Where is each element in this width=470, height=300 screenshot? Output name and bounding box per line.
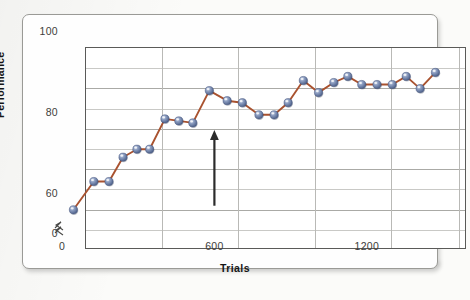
grid-line-horizontal <box>86 129 465 130</box>
grid-line-horizontal <box>86 88 465 89</box>
grid-line-horizontal <box>86 109 465 110</box>
grid-line-vertical <box>391 48 392 248</box>
grid-line-horizontal <box>86 169 465 170</box>
grid-line-horizontal <box>86 149 465 150</box>
figure-card <box>22 14 438 269</box>
grid-line-vertical <box>162 48 163 248</box>
x-tick-label: 600 <box>184 240 244 252</box>
x-tick-label: 1200 <box>337 240 397 252</box>
grid-line-vertical <box>459 48 460 248</box>
x-axis-tick-labels: 06001200 <box>0 240 470 256</box>
grid-line-horizontal <box>86 230 465 231</box>
grid-line-vertical <box>238 48 239 248</box>
y-tick-label: 100 <box>24 25 58 37</box>
y-tick-label: 60 <box>24 187 58 199</box>
grid-line-horizontal <box>86 210 465 211</box>
y-tick-label: 80 <box>24 106 58 118</box>
x-axis-title: Trials <box>0 262 470 274</box>
plot-area <box>85 47 466 249</box>
y-tick-label-zero: 0 <box>24 227 58 239</box>
grid-line-horizontal <box>86 68 465 69</box>
x-tick-label: 0 <box>32 240 92 252</box>
y-axis-title: Performance <box>0 52 6 118</box>
grid-line-vertical <box>315 48 316 248</box>
grid-line-horizontal <box>86 189 465 190</box>
